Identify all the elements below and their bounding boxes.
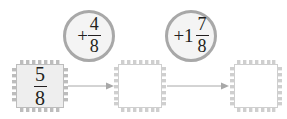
denominator: 8: [197, 37, 208, 55]
numerator: 7: [197, 15, 208, 33]
value-box-start-content: 5 8: [12, 60, 68, 112]
whole-number: 1: [184, 26, 194, 45]
operation-circle-one[interactable]: + 4 8: [63, 10, 115, 62]
fraction-flow-diagram: 5 8: [0, 0, 287, 119]
value-box-start[interactable]: 5 8: [12, 60, 68, 112]
arrow-one: [68, 81, 114, 91]
denominator: 8: [89, 37, 100, 55]
arrowhead-icon: [106, 83, 114, 90]
value-box-first-answer-content: [114, 60, 166, 112]
value-box-second-answer[interactable]: [230, 60, 282, 112]
arrow-two: [167, 81, 229, 91]
operation-circle-two[interactable]: + 1 7 8: [165, 10, 217, 62]
numerator: 4: [89, 15, 100, 33]
value-box-first-answer[interactable]: [114, 60, 166, 112]
arrowhead-icon: [221, 83, 229, 90]
value-box-second-answer-content: [230, 60, 282, 112]
fraction-seven-eighths: 7 8: [196, 15, 209, 55]
fraction-four-eighths: 4 8: [88, 15, 101, 55]
fraction-five-eighths: 5 8: [34, 64, 47, 108]
plus-sign-icon: +: [173, 26, 184, 45]
plus-sign-icon: +: [77, 26, 88, 45]
operation-one-expression: + 4 8: [77, 15, 101, 55]
operation-two-expression: + 1 7 8: [173, 15, 208, 55]
denominator: 8: [34, 88, 46, 108]
numerator: 5: [34, 64, 46, 84]
